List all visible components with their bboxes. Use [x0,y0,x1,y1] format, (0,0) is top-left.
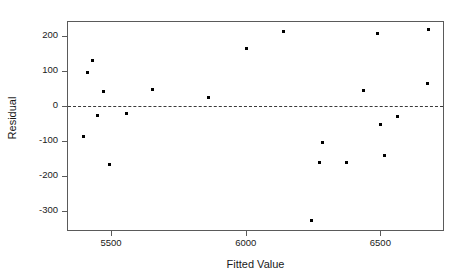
x-axis-tick [246,230,247,236]
y-axis-tick-label: 0 [18,100,58,110]
chart-title [0,0,454,3]
data-point [207,96,210,99]
data-point [310,219,313,222]
y-axis-tick-label: 200 [18,30,58,40]
x-axis-tick-label: 6500 [370,238,391,248]
y-axis-tick [62,141,68,142]
data-point [82,135,85,138]
x-axis-tick-label: 6000 [235,238,256,248]
data-point [321,141,324,144]
x-axis-title: Fitted Value [67,258,444,270]
data-point [102,90,105,93]
data-point [86,71,89,74]
data-point [376,32,379,35]
y-axis-title: Residual [6,78,18,158]
y-axis-tick [62,36,68,37]
data-point [245,47,248,50]
data-point [282,30,285,33]
y-axis-tick [62,106,68,107]
y-axis-tick-label: -300 [18,205,58,215]
y-axis-tick-label: 100 [18,65,58,75]
data-point [318,161,321,164]
data-point [379,123,382,126]
x-axis-tick [380,230,381,236]
data-point [96,114,99,117]
data-point [151,88,154,91]
data-point [362,89,365,92]
x-axis-tick-label: 5500 [101,238,122,248]
residual-vs-fitted-scatter-chart: 550060006500 2001000-100-200-300 Residua… [0,0,454,278]
y-axis-tick [62,71,68,72]
data-point [383,154,386,157]
zero-reference-line [68,106,443,107]
plot-area: 550060006500 [67,21,444,231]
x-axis-tick [111,230,112,236]
y-axis-tick [62,211,68,212]
data-point [91,59,94,62]
data-point [427,28,430,31]
data-point [396,115,399,118]
data-point [345,161,348,164]
y-axis-tick [62,176,68,177]
y-axis-tick-label: -100 [18,135,58,145]
data-point [426,82,429,85]
y-axis-tick-label: -200 [18,170,58,180]
data-point [125,112,128,115]
data-point [108,163,111,166]
